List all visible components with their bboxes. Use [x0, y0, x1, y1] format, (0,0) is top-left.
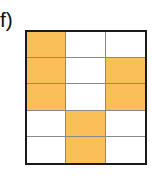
- grid-cell-filled: [106, 84, 145, 110]
- figure-label: f): [0, 8, 13, 32]
- shaded-grid: [25, 30, 147, 165]
- grid-cell-filled: [27, 84, 66, 110]
- grid-cell-empty: [66, 58, 105, 84]
- grid-cell-empty: [27, 111, 66, 137]
- grid-cell-empty: [66, 32, 105, 58]
- grid-cell-filled: [106, 58, 145, 84]
- grid-cell-filled: [27, 58, 66, 84]
- grid-cell-filled: [66, 111, 105, 137]
- grid-cell-empty: [106, 111, 145, 137]
- grid-cell-filled: [66, 137, 105, 163]
- grid-cell-empty: [27, 137, 66, 163]
- grid-cell-filled: [27, 32, 66, 58]
- grid-cell-empty: [106, 32, 145, 58]
- grid-cell-empty: [106, 137, 145, 163]
- grid-cell-empty: [66, 84, 105, 110]
